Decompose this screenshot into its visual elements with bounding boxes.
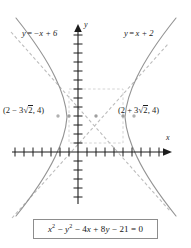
vertex-right-sqrt: √2 — [138, 105, 147, 115]
eq-op-4: − 21 = 0 — [110, 224, 144, 234]
vertex-left-close: , 4) — [33, 105, 44, 115]
y-axis-label: y — [84, 21, 88, 29]
asymptote-line-negative — [11, 32, 170, 211]
asymptote-right-equals: = — [128, 28, 136, 38]
y-axis-arrow — [74, 24, 82, 32]
x-axis-label: x — [166, 134, 170, 142]
equation-text: x2 − y2 − 4x + 8y − 21 = 0 — [48, 224, 143, 234]
x-axis-arrow — [163, 148, 172, 156]
vertex-left-point — [67, 114, 70, 117]
asymptote-line-positive — [12, 44, 168, 218]
center-point — [94, 114, 97, 117]
asymptote-left-equals: = — [26, 28, 34, 38]
vertex-right-close: , 4) — [148, 105, 159, 115]
asymptote-left-rhs: −x + 6 — [34, 28, 58, 38]
focus-left-point — [56, 114, 59, 117]
eq-op-3: + 8 — [91, 224, 105, 234]
vertex-right-label: (2 + 3√2, 4) — [118, 105, 159, 115]
eq-op-1: − — [55, 224, 65, 234]
hyperbola-figure: y x y=−x + 6 y=x + 2 (2 − 3√2, 4) (2 + 3… — [0, 0, 191, 248]
vertex-right-open: (2 + 3 — [118, 105, 138, 115]
asymptote-right-label: y=x + 2 — [124, 29, 154, 38]
vertex-left-open: (2 − 3 — [3, 105, 23, 115]
vertex-left-sqrt: √2 — [23, 105, 32, 115]
vertex-left-radicand: 2 — [28, 105, 33, 115]
equation-box: x2 − y2 − 4x + 8y − 21 = 0 — [33, 219, 158, 239]
vertex-right-radicand: 2 — [143, 105, 148, 115]
asymptote-left-label: y=−x + 6 — [22, 29, 57, 38]
vertex-left-label: (2 − 3√2, 4) — [3, 105, 44, 115]
eq-op-2: − 4 — [72, 224, 86, 234]
asymptote-right-rhs: x + 2 — [136, 28, 154, 38]
